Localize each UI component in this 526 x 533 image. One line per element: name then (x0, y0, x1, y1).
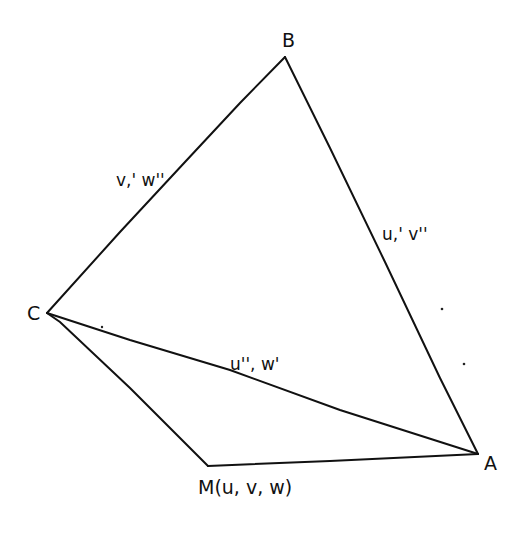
speck (101, 326, 103, 328)
vertex-labels: B C A M(u, v, w) (27, 29, 497, 498)
edge-c-m (47, 313, 208, 466)
vertex-label-b: B (282, 29, 295, 51)
edge-label-bc: v,' w'' (116, 170, 165, 190)
edge-label-ca: u'', w' (230, 354, 280, 374)
edge-c-a (47, 313, 478, 454)
speck (463, 363, 466, 366)
edge-b-c (47, 57, 285, 313)
edges (47, 57, 478, 466)
edge-label-ba: u,' v'' (382, 224, 428, 244)
speck (441, 308, 444, 311)
geometry-diagram: B C A M(u, v, w) v,' w'' u,' v'' u'', w' (0, 0, 526, 533)
edge-m-a (208, 454, 478, 466)
edge-b-a (285, 57, 478, 454)
vertex-label-c: C (27, 302, 40, 324)
edge-labels: v,' w'' u,' v'' u'', w' (116, 170, 428, 374)
vertex-label-a: A (484, 452, 497, 474)
vertex-label-m: M(u, v, w) (198, 476, 292, 498)
